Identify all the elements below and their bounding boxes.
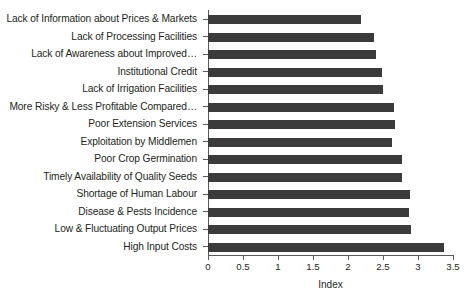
bar	[208, 85, 383, 94]
bar	[208, 190, 410, 199]
bar	[208, 155, 402, 164]
bar	[208, 173, 402, 182]
x-axis-tick-label: 2.5	[376, 261, 389, 272]
x-axis-tick-label: 3.5	[446, 261, 459, 272]
x-axis-tick	[383, 255, 384, 260]
bar	[208, 208, 409, 217]
category-label: More Risky & Less Profitable Compared…	[9, 98, 197, 117]
category-label: Poor Crop Germination	[94, 150, 197, 169]
bar-chart: Lack of Information about Prices & Marke…	[0, 0, 474, 303]
x-axis-tick-label: 1.5	[306, 261, 319, 272]
category-label: Lack of Processing Facilities	[71, 28, 197, 47]
category-label: Poor Extension Services	[88, 115, 197, 134]
bar-row	[208, 133, 453, 152]
category-label: Low & Fluctuating Output Prices	[55, 220, 197, 239]
category-label: High Input Costs	[123, 238, 197, 257]
category-label: Disease & Pests Incidence	[78, 203, 197, 222]
x-axis-tick-label: 1	[275, 261, 280, 272]
x-axis-tick	[453, 255, 454, 260]
x-axis-tick-label: 0	[205, 261, 210, 272]
x-axis-tick-label: 0.5	[236, 261, 249, 272]
x-axis-tick	[418, 255, 419, 260]
x-axis-tick-labels: 00.511.522.533.5	[208, 261, 458, 275]
category-label: Lack of Awareness about Improved…	[31, 45, 197, 64]
bar-row	[208, 168, 453, 187]
bar-row	[208, 80, 453, 99]
bar-row	[208, 115, 453, 134]
bar-row	[208, 238, 453, 257]
bar-row	[208, 10, 453, 29]
x-axis-tick-label: 3	[415, 261, 420, 272]
bar-row	[208, 185, 453, 204]
bar-row	[208, 150, 453, 169]
bar	[208, 243, 444, 252]
bar-row	[208, 98, 453, 117]
plot-area	[208, 10, 453, 255]
bar-row	[208, 63, 453, 82]
bar-row	[208, 45, 453, 64]
bar-row	[208, 220, 453, 239]
category-label: Lack of Information about Prices & Marke…	[6, 10, 197, 29]
bar	[208, 50, 376, 59]
bar	[208, 33, 374, 42]
bar-row	[208, 203, 453, 222]
bar	[208, 138, 392, 147]
x-axis-title: Index	[208, 279, 453, 290]
bar-row	[208, 28, 453, 47]
x-axis-tick	[243, 255, 244, 260]
bar	[208, 225, 411, 234]
bar	[208, 15, 361, 24]
x-axis-tick	[348, 255, 349, 260]
x-axis-tick	[278, 255, 279, 260]
category-label: Exploitation by Middlemen	[81, 133, 197, 152]
x-axis-tick	[313, 255, 314, 260]
category-label: Timely Availability of Quality Seeds	[43, 168, 197, 187]
bar	[208, 68, 382, 77]
x-axis-tick	[208, 255, 209, 260]
category-label: Lack of Irrigation Facilities	[82, 80, 197, 99]
category-label: Shortage of Human Labour	[77, 185, 198, 204]
x-axis-tick-label: 2	[345, 261, 350, 272]
bar	[208, 103, 394, 112]
bar	[208, 120, 395, 129]
category-label: Institutional Credit	[117, 63, 197, 82]
category-axis-labels: Lack of Information about Prices & Marke…	[0, 10, 203, 255]
